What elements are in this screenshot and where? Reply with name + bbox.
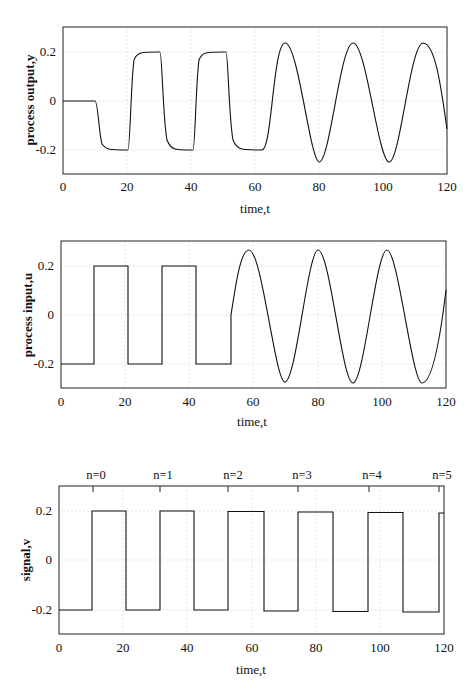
svg-text:0: 0 bbox=[48, 307, 55, 322]
x-ticks: 020 4060 80100 120 bbox=[58, 394, 456, 409]
grid bbox=[61, 241, 446, 388]
svg-text:0: 0 bbox=[46, 552, 53, 567]
svg-text:120: 120 bbox=[436, 394, 456, 409]
svg-text:80: 80 bbox=[310, 640, 323, 655]
svg-text:0: 0 bbox=[60, 179, 67, 194]
svg-text:0: 0 bbox=[58, 394, 65, 409]
svg-text:60: 60 bbox=[246, 640, 259, 655]
x-axis-label: time,t bbox=[236, 662, 266, 677]
svg-text:60: 60 bbox=[247, 394, 260, 409]
grid bbox=[63, 27, 447, 174]
svg-text:100: 100 bbox=[370, 640, 390, 655]
svg-text:0.2: 0.2 bbox=[40, 44, 56, 59]
process-input-chart: 0.2 0 -0.2 020 4060 80100 120 time,t pro… bbox=[0, 230, 476, 460]
signal-chart: n=0 n=1 n=2 n=3 n=4 n=5 0.2 0 -0.2 020 4… bbox=[0, 460, 476, 690]
n-label: n=3 bbox=[292, 468, 312, 482]
svg-text:60: 60 bbox=[249, 179, 262, 194]
signal-curve bbox=[59, 511, 444, 612]
n-label: n=0 bbox=[86, 468, 106, 482]
input-curve bbox=[61, 250, 446, 383]
svg-text:40: 40 bbox=[181, 640, 194, 655]
svg-text:-0.2: -0.2 bbox=[33, 356, 54, 371]
svg-text:40: 40 bbox=[185, 179, 198, 194]
x-ticks: 020 4060 80100 120 bbox=[56, 640, 454, 655]
svg-text:120: 120 bbox=[434, 640, 454, 655]
n-label: n=1 bbox=[153, 468, 173, 482]
grid bbox=[59, 486, 444, 634]
svg-text:-0.2: -0.2 bbox=[31, 602, 52, 617]
svg-text:0.2: 0.2 bbox=[36, 503, 52, 518]
svg-text:80: 80 bbox=[312, 394, 325, 409]
x-axis-label: time,t bbox=[240, 201, 270, 216]
y-axis-label: process output,y bbox=[22, 54, 37, 145]
y-axis-label: signal,v bbox=[18, 538, 33, 581]
y-ticks: 0.2 0 -0.2 bbox=[33, 258, 54, 371]
process-output-chart: 0.2 0 -0.2 020 4060 80100 120 time,t pro… bbox=[0, 0, 476, 230]
svg-text:20: 20 bbox=[121, 179, 134, 194]
svg-text:0.2: 0.2 bbox=[38, 258, 54, 273]
n-markers bbox=[93, 486, 439, 492]
x-axis-label: time,t bbox=[237, 414, 267, 429]
y-axis-label: process input,u bbox=[20, 273, 35, 357]
n-annotations: n=0 n=1 n=2 n=3 n=4 n=5 bbox=[86, 468, 452, 482]
x-ticks: 020 4060 80100 120 bbox=[60, 179, 457, 194]
svg-text:0: 0 bbox=[50, 93, 57, 108]
n-label: n=2 bbox=[223, 468, 243, 482]
svg-text:100: 100 bbox=[373, 179, 393, 194]
y-ticks: 0.2 0 -0.2 bbox=[31, 503, 52, 617]
plot-frame bbox=[61, 241, 446, 388]
y-ticks: 0.2 0 -0.2 bbox=[35, 44, 56, 157]
n-label: n=4 bbox=[362, 468, 382, 482]
svg-text:20: 20 bbox=[119, 394, 132, 409]
svg-text:0: 0 bbox=[56, 640, 63, 655]
svg-text:100: 100 bbox=[372, 394, 392, 409]
svg-text:80: 80 bbox=[313, 179, 326, 194]
svg-text:-0.2: -0.2 bbox=[35, 142, 56, 157]
svg-text:120: 120 bbox=[437, 179, 457, 194]
n-label: n=5 bbox=[432, 468, 452, 482]
svg-text:20: 20 bbox=[117, 640, 130, 655]
svg-text:40: 40 bbox=[183, 394, 196, 409]
